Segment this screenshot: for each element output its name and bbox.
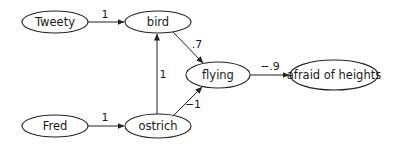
node-label: flying (202, 68, 234, 82)
edge-weight-label: 1 (160, 68, 167, 81)
edge-weight-label: −1 (185, 98, 201, 111)
node-fred: Fred (22, 115, 88, 137)
edge-ostrich-flying: −1 (174, 87, 202, 115)
node-bird: bird (125, 11, 191, 33)
node-label: Tweety (34, 15, 75, 29)
node-ostrich: ostrich (125, 114, 191, 138)
node-label: ostrich (138, 119, 177, 133)
edge-weight-label: 1 (102, 8, 109, 21)
edge-ostrich-bird: 1 (157, 34, 167, 114)
edge-tweety-bird: 1 (88, 8, 124, 23)
node-label: Fred (43, 119, 68, 133)
node-label: afraid of heights (287, 68, 381, 82)
node-tweety: Tweety (22, 11, 88, 33)
edge-weight-label: −.9 (260, 60, 280, 73)
inference-network-diagram: 1 .7 1 −1 −.9 1 Tweety bird flying afrai… (0, 0, 396, 150)
edge-flying-afraid: −.9 (250, 60, 289, 76)
node-label: bird (147, 15, 169, 29)
node-afraid-of-heights: afraid of heights (287, 60, 381, 90)
edge-weight-label: .7 (192, 38, 203, 51)
edge-fred-ostrich: 1 (88, 111, 124, 127)
node-flying: flying (186, 62, 250, 88)
edge-bird-flying: .7 (173, 32, 203, 63)
edge-weight-label: 1 (102, 111, 109, 124)
